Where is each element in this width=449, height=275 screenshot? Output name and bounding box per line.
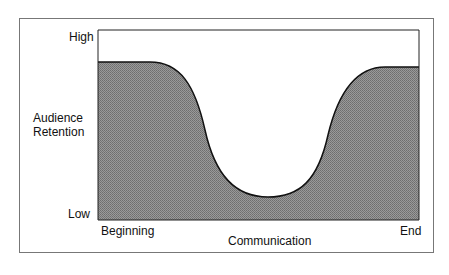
y-axis-label-line2: Retention — [33, 125, 84, 139]
x-start-label: Beginning — [101, 224, 154, 238]
y-high-label: High — [69, 30, 94, 44]
x-axis-label: Communication — [228, 234, 311, 248]
x-end-label: End — [400, 224, 421, 238]
y-axis-label-line1: Audience — [33, 111, 83, 125]
y-low-label: Low — [68, 207, 90, 221]
